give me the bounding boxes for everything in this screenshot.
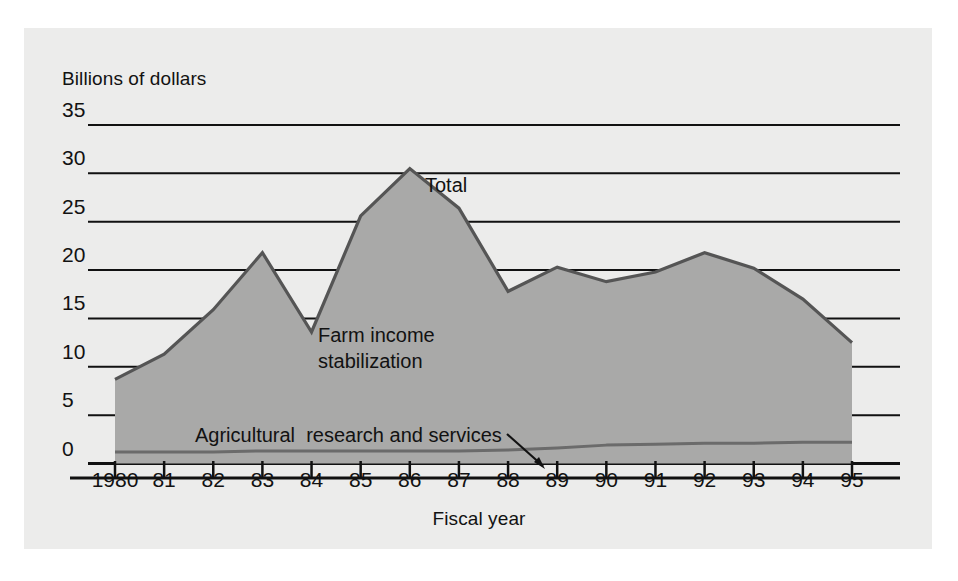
x-tick-label-1991: 91 <box>644 468 667 492</box>
x-tick-label-1988: 88 <box>496 468 519 492</box>
x-tick-label-1982: 82 <box>202 468 225 492</box>
x-tick-label-1984: 84 <box>300 468 323 492</box>
x-tick-label-1993: 93 <box>742 468 765 492</box>
x-tick-label-1989: 89 <box>546 468 569 492</box>
x-tick-label-1980: 1980 <box>92 468 139 492</box>
x-tick-label-1981: 81 <box>152 468 175 492</box>
x-tick-label-1992: 92 <box>693 468 716 492</box>
y-tick-label-15: 15 <box>62 291 85 315</box>
y-tick-label-10: 10 <box>62 340 85 364</box>
x-tick-label-1986: 86 <box>398 468 421 492</box>
x-tick-label-1990: 90 <box>595 468 618 492</box>
x-tick-label-1987: 87 <box>447 468 470 492</box>
series-label-total: Total <box>425 172 467 198</box>
y-tick-label-30: 30 <box>62 146 85 170</box>
area-total-series <box>115 169 852 464</box>
y-axis-title: Billions of dollars <box>62 68 206 90</box>
x-tick-label-1994: 94 <box>791 468 814 492</box>
x-axis-title: Fiscal year <box>0 508 958 530</box>
chart-figure: Billions of dollars Fiscal year 05101520… <box>0 0 958 581</box>
series-label-farm-income: Farm income stabilization <box>318 322 435 374</box>
series-label-agricultural: Agricultural research and services <box>195 422 502 448</box>
x-tick-label-1985: 85 <box>349 468 372 492</box>
y-tick-label-20: 20 <box>62 243 85 267</box>
y-tick-label-35: 35 <box>62 98 85 122</box>
y-tick-label-5: 5 <box>62 388 74 412</box>
x-tick-label-1995: 95 <box>840 468 863 492</box>
x-tick-label-1983: 83 <box>251 468 274 492</box>
y-tick-label-25: 25 <box>62 195 85 219</box>
y-tick-label-0: 0 <box>62 437 74 461</box>
